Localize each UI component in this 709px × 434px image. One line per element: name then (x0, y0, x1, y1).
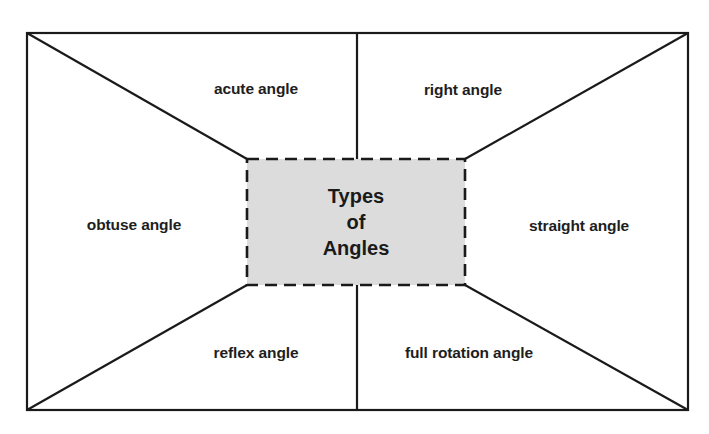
label-full-rotation-angle: full rotation angle (405, 344, 533, 362)
label-straight-angle: straight angle (529, 217, 629, 235)
center-title-line-2: of (323, 209, 390, 235)
label-acute-angle: acute angle (214, 80, 298, 98)
center-title: Types of Angles (323, 183, 390, 261)
center-title-line-3: Angles (323, 235, 390, 261)
label-obtuse-angle: obtuse angle (87, 216, 181, 234)
label-right-angle: right angle (424, 81, 502, 99)
label-reflex-angle: reflex angle (214, 344, 299, 362)
types-of-angles-diagram: Types of Angles acute angle right angle … (0, 0, 709, 434)
center-title-line-1: Types (323, 183, 390, 209)
